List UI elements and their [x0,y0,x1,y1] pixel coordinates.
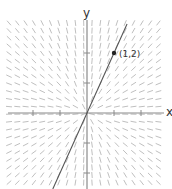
point-label: (1,2) [119,49,140,59]
y-axis-label: y [83,6,90,20]
initial-point [112,51,116,55]
axes [8,20,164,189]
slope-field-plot [0,0,172,189]
slope-field-segments [6,20,161,185]
x-axis-label: x [166,105,172,119]
